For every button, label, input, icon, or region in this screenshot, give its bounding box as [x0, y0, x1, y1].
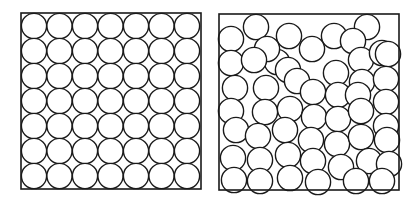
particle-circle: [47, 113, 72, 138]
particle-circle: [299, 36, 324, 61]
particle-circle: [72, 163, 97, 188]
particle-circle: [21, 13, 46, 38]
particle-circle: [149, 88, 174, 113]
particle-circle: [301, 104, 326, 129]
particle-circle: [348, 98, 373, 123]
particle-circle: [277, 165, 302, 190]
particle-circle: [98, 38, 123, 63]
particle-circle: [305, 169, 330, 194]
particle-circle: [323, 60, 348, 85]
particle-circle: [21, 138, 46, 163]
particle-circle: [373, 66, 398, 91]
particle-circle: [252, 99, 277, 124]
figure-svg: [0, 0, 419, 200]
particle-circle: [174, 38, 199, 63]
particle-circle: [47, 88, 72, 113]
particle-circle: [123, 38, 148, 63]
particle-circle: [243, 14, 268, 39]
particle-circle: [123, 88, 148, 113]
particle-circle: [253, 75, 278, 100]
particle-circle: [348, 124, 373, 149]
particle-circle: [98, 163, 123, 188]
particle-circle: [174, 63, 199, 88]
particle-circle: [21, 163, 46, 188]
particle-circle: [98, 138, 123, 163]
particle-circle: [72, 13, 97, 38]
particle-circle: [123, 163, 148, 188]
particle-circle: [72, 63, 97, 88]
particle-circle: [174, 88, 199, 113]
particle-circle: [149, 38, 174, 63]
particle-circle: [21, 38, 46, 63]
particle-circle: [47, 13, 72, 38]
particle-circle: [47, 163, 72, 188]
particle-circle: [21, 113, 46, 138]
particle-circle: [373, 89, 398, 114]
particle-circle: [21, 63, 46, 88]
particle-circle: [47, 138, 72, 163]
particle-circle: [149, 13, 174, 38]
particle-circle: [218, 26, 243, 51]
particle-circle: [222, 75, 247, 100]
particle-circle: [98, 88, 123, 113]
particle-circle: [223, 117, 248, 142]
particle-circle: [123, 138, 148, 163]
particle-circle: [98, 13, 123, 38]
disordered-packing-panel: [218, 14, 401, 195]
particle-circle: [375, 41, 400, 66]
particle-circle: [275, 142, 300, 167]
particle-circle: [174, 138, 199, 163]
ordered-packing-panel: [21, 13, 201, 189]
particle-circle: [300, 79, 325, 104]
particle-circle: [72, 88, 97, 113]
particle-circle: [47, 38, 72, 63]
particle-circle: [221, 167, 246, 192]
particle-circle: [72, 38, 97, 63]
particle-circle: [174, 113, 199, 138]
particle-circle: [98, 113, 123, 138]
particle-circle: [149, 113, 174, 138]
particle-circle: [276, 23, 301, 48]
particle-circle: [149, 163, 174, 188]
particle-circle: [123, 113, 148, 138]
particle-circle: [47, 63, 72, 88]
particle-circle: [374, 127, 399, 152]
particle-circle: [272, 117, 297, 142]
particle-circle: [149, 138, 174, 163]
particle-circle: [72, 138, 97, 163]
particle-circle: [123, 13, 148, 38]
packing-comparison-figure: [0, 0, 419, 200]
particle-circle: [98, 63, 123, 88]
particle-circle: [174, 13, 199, 38]
particle-circle: [21, 88, 46, 113]
particle-circle: [218, 50, 243, 75]
particle-circle: [123, 63, 148, 88]
particle-circle: [72, 113, 97, 138]
particle-circle: [241, 47, 266, 72]
particle-circle: [325, 106, 350, 131]
particle-circle: [245, 123, 270, 148]
particle-circle: [174, 163, 199, 188]
particle-circle: [324, 131, 349, 156]
particle-circle: [149, 63, 174, 88]
